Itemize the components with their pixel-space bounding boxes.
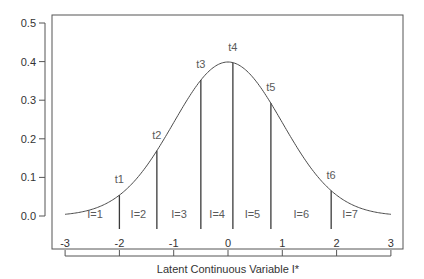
y-tick-label: 0.5 bbox=[21, 17, 36, 29]
category-label: I=1 bbox=[87, 208, 103, 220]
x-tick-label: -2 bbox=[115, 237, 125, 249]
x-tick-label: 3 bbox=[388, 237, 394, 249]
category-label: I=4 bbox=[209, 208, 225, 220]
category-label: I=5 bbox=[245, 208, 261, 220]
category-label: I=7 bbox=[342, 208, 358, 220]
normal-density-plot: 0.00.10.20.30.40.5 -3-2-10123 t1t2t3t4t5… bbox=[0, 0, 424, 279]
threshold-label-t6: t6 bbox=[327, 169, 336, 181]
threshold-label-t1: t1 bbox=[115, 173, 124, 185]
category-labels: I=1I=2I=3I=4I=5I=6I=7 bbox=[87, 208, 358, 220]
category-label: I=3 bbox=[171, 208, 187, 220]
y-tick-label: 0.3 bbox=[21, 94, 36, 106]
chart-container: 0.00.10.20.30.40.5 -3-2-10123 t1t2t3t4t5… bbox=[0, 0, 424, 279]
x-tick-label: 0 bbox=[225, 237, 231, 249]
y-tick-label: 0.2 bbox=[21, 133, 36, 145]
x-tick-label: 2 bbox=[334, 237, 340, 249]
x-tick-label: -1 bbox=[169, 237, 179, 249]
x-tick-label: -3 bbox=[60, 237, 70, 249]
density-curve bbox=[65, 62, 391, 214]
category-label: I=6 bbox=[294, 208, 310, 220]
threshold-lines: t1t2t3t4t5t6 bbox=[115, 41, 336, 229]
threshold-label-t5: t5 bbox=[266, 81, 275, 93]
x-axis-title: Latent Continuous Variable I* bbox=[157, 263, 300, 275]
threshold-label-t3: t3 bbox=[196, 58, 205, 70]
y-tick-label: 0.0 bbox=[21, 210, 36, 222]
threshold-label-t2: t2 bbox=[152, 129, 161, 141]
threshold-label-t4: t4 bbox=[228, 41, 237, 53]
y-tick-label: 0.4 bbox=[21, 56, 36, 68]
x-axis: -3-2-10123 bbox=[60, 237, 394, 256]
y-axis: 0.00.10.20.30.40.5 bbox=[21, 17, 45, 222]
category-label: I=2 bbox=[131, 208, 147, 220]
y-tick-label: 0.1 bbox=[21, 171, 36, 183]
x-tick-label: 1 bbox=[279, 237, 285, 249]
